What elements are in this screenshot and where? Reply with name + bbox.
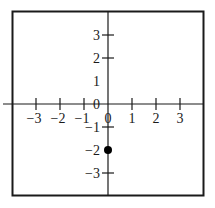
- x-tick-labels: −3 −2 −1 0 1 2 3: [27, 111, 184, 126]
- y-label-0: 0: [93, 97, 100, 112]
- y-label-p2: 2: [93, 51, 100, 66]
- data-point: [104, 146, 112, 154]
- y-label-m2: −2: [85, 143, 100, 158]
- x-label-0: 0: [105, 111, 112, 126]
- x-label-p3: 3: [177, 111, 184, 126]
- x-label-p1: 1: [129, 111, 136, 126]
- coordinate-plane: −3 −2 −1 0 1 2 3 3 2 1 0 −1 −2 −3: [0, 0, 215, 208]
- x-label-m2: −2: [51, 111, 66, 126]
- y-label-p3: 3: [93, 28, 100, 43]
- y-label-m3: −3: [85, 166, 100, 181]
- y-label-m1: −1: [85, 120, 100, 135]
- x-label-p2: 2: [153, 111, 160, 126]
- x-label-m3: −3: [27, 111, 42, 126]
- y-label-p1: 1: [93, 74, 100, 89]
